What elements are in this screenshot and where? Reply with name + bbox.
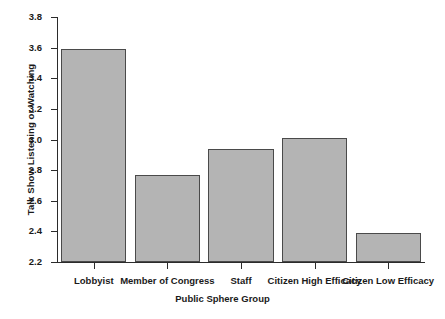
x-axis-title: Public Sphere Group bbox=[0, 292, 445, 305]
y-tick-label: 3.4 bbox=[29, 71, 42, 84]
x-label-citizen-low-efficacy: Citizen Low Efficacy bbox=[342, 275, 434, 287]
bar-lobbyist bbox=[61, 49, 126, 262]
x-label-lobbyist: Lobbyist bbox=[74, 275, 114, 287]
y-tick-2.6: 2.6 bbox=[51, 201, 57, 202]
y-tick-label: 2.8 bbox=[29, 163, 42, 176]
y-tick-2.2: 2.2 bbox=[51, 262, 57, 263]
bar-member-of-congress bbox=[135, 175, 200, 262]
y-tick-label: 3.2 bbox=[29, 102, 42, 115]
x-tick bbox=[315, 263, 316, 269]
y-tick-label: 2.2 bbox=[29, 255, 42, 268]
bar-chart: Talk Show Listening or Watching 2.22.42.… bbox=[0, 0, 445, 319]
y-axis-line bbox=[57, 17, 58, 263]
y-tick-3.8: 3.8 bbox=[51, 17, 57, 18]
y-tick-2.8: 2.8 bbox=[51, 170, 57, 171]
y-tick-label: 2.4 bbox=[29, 224, 42, 237]
bar-staff bbox=[208, 149, 273, 262]
x-tick bbox=[388, 263, 389, 269]
y-tick-label: 2.6 bbox=[29, 194, 42, 207]
plot-area: 2.22.42.62.83.03.23.43.63.8 bbox=[57, 17, 425, 262]
bar-citizen-high-efficacy bbox=[282, 138, 347, 262]
y-tick-3.6: 3.6 bbox=[51, 48, 57, 49]
x-label-member-of-congress: Member of Congress bbox=[120, 275, 215, 287]
x-tick bbox=[241, 263, 242, 269]
y-tick-label: 3.0 bbox=[29, 133, 42, 146]
y-tick-label: 3.6 bbox=[29, 41, 42, 54]
x-label-staff: Staff bbox=[230, 275, 251, 287]
x-tick bbox=[167, 263, 168, 269]
y-tick-3.2: 3.2 bbox=[51, 109, 57, 110]
bar-citizen-low-efficacy bbox=[356, 233, 421, 262]
y-tick-2.4: 2.4 bbox=[51, 231, 57, 232]
y-tick-3.0: 3.0 bbox=[51, 140, 57, 141]
y-tick-3.4: 3.4 bbox=[51, 78, 57, 79]
x-tick bbox=[94, 263, 95, 269]
y-tick-label: 3.8 bbox=[29, 10, 42, 23]
